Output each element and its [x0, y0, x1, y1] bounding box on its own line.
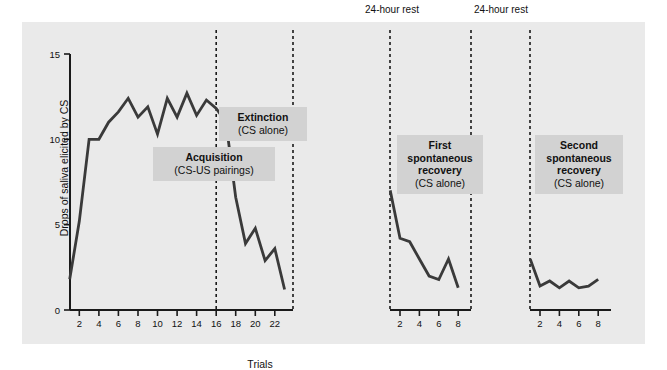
x-axis-title: Trials	[200, 358, 320, 370]
rec1-x-tick-label-8: 8	[456, 318, 461, 329]
x-tick-label-8: 8	[135, 318, 140, 329]
annotation-second-recovery: Second spontaneous recovery (CS alone)	[535, 135, 623, 194]
rec1-x-tick-label-2: 2	[397, 318, 402, 329]
curve-second-recovery-path	[530, 259, 598, 288]
annotation-extinction-sub: (CS alone)	[226, 124, 300, 137]
rec2-x-tick-label-4: 4	[557, 318, 562, 329]
annotation-acquisition-title: Acquisition	[160, 151, 268, 164]
annotation-extinction: Extinction (CS alone)	[219, 107, 307, 141]
y-tick-label-0: 0	[55, 305, 60, 316]
annotation-acquisition: Acquisition (CS-US pairings)	[153, 147, 275, 181]
x-tick-label-14: 14	[191, 318, 202, 329]
rec1-x-tick-label-4: 4	[417, 318, 422, 329]
curve-first-recovery	[390, 190, 458, 287]
annotation-extinction-title: Extinction	[226, 111, 300, 124]
rec2-x-tick-label-2: 2	[537, 318, 542, 329]
x-tick-label-18: 18	[230, 318, 241, 329]
annotation-first-recovery: First spontaneous recovery (CS alone)	[397, 135, 483, 194]
x-tick-label-4: 4	[96, 318, 101, 329]
rec2-x-tick-label-6: 6	[576, 318, 581, 329]
annotation-acquisition-sub: (CS-US pairings)	[160, 164, 268, 177]
rec2-x-tick-label-8: 8	[596, 318, 601, 329]
chart-panel: 15 10 5 0 2 4 6 8 10 12 14 16 18	[22, 22, 645, 344]
x-tick-label-10: 10	[152, 318, 163, 329]
x-tick-label-2: 2	[77, 318, 82, 329]
x-tick-label-20: 20	[250, 318, 261, 329]
annotation-second-recovery-sub: (CS alone)	[542, 177, 616, 190]
x-tick-label-22: 22	[270, 318, 281, 329]
rest-label-1: 24-hour rest	[361, 4, 423, 16]
x-tick-label-16: 16	[211, 318, 222, 329]
rec1-x-tick-label-6: 6	[436, 318, 441, 329]
rest-label-2: 24-hour rest	[470, 4, 532, 16]
annotation-second-recovery-title: Second spontaneous recovery	[542, 139, 616, 177]
x-tick-label-12: 12	[172, 318, 183, 329]
annotation-first-recovery-sub: (CS alone)	[404, 177, 476, 190]
y-tick-label-15: 15	[49, 49, 60, 60]
annotation-first-recovery-title: First spontaneous recovery	[404, 139, 476, 177]
y-axis-title: Drops of saliva elicited by CS	[58, 88, 70, 248]
x-tick-label-6: 6	[116, 318, 121, 329]
